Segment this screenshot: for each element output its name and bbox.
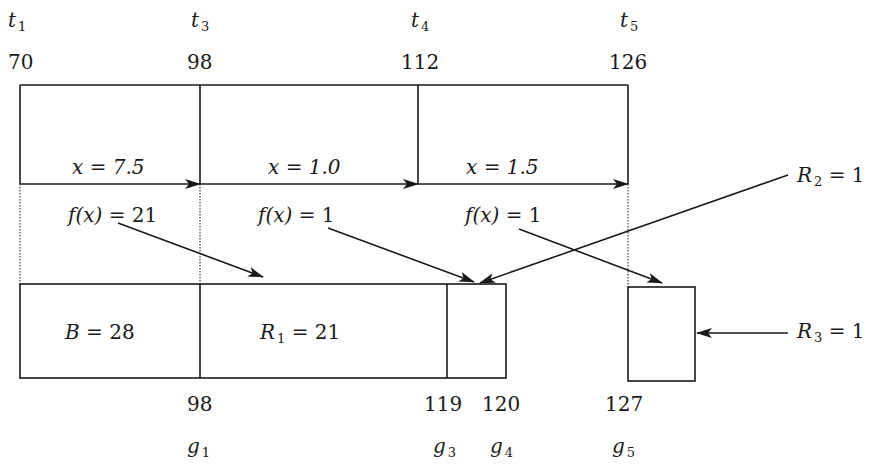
marker-g4-value: 120 (482, 392, 520, 416)
marker-t1: t1 (8, 8, 26, 34)
interval-2-x-label: x = 1.0 (268, 155, 341, 179)
cell-b-label: B = 28 (65, 320, 135, 344)
marker-g5-value: 127 (605, 392, 643, 416)
marker-t3: t3 (191, 8, 209, 34)
marker-g3-value: 119 (424, 392, 462, 416)
interval-3-fx-label: f(x) = 1 (465, 203, 542, 227)
lower-right-box (628, 287, 695, 381)
r2-label: R2 = 1 (797, 163, 865, 189)
marker-g1: g1 (187, 434, 210, 460)
marker-t4-value: 112 (401, 50, 439, 74)
r3-label: R3 = 1 (797, 319, 865, 345)
marker-t4: t4 (411, 8, 429, 34)
cell-r1-label: R1 = 21 (260, 320, 340, 346)
interval-1-fx-label: f(x) = 21 (68, 203, 157, 227)
fx-arrow-2 (328, 228, 474, 282)
marker-t1-value: 70 (8, 50, 33, 74)
interval-2-fx-label: f(x) = 1 (258, 203, 335, 227)
marker-t3-value: 98 (187, 50, 212, 74)
fx-arrow-3 (519, 229, 662, 283)
marker-g4: g4 (490, 434, 513, 460)
interval-1-x-label: x = 7.5 (72, 155, 145, 179)
marker-t5-value: 126 (609, 50, 647, 74)
fx-arrow-1 (118, 223, 263, 277)
marker-t5: t5 (620, 8, 638, 34)
marker-g3: g3 (433, 434, 456, 460)
interval-3-x-label: x = 1.5 (466, 155, 539, 179)
marker-g5: g5 (612, 434, 635, 460)
r2-arrow (480, 175, 788, 283)
marker-g1-value: 98 (187, 392, 212, 416)
